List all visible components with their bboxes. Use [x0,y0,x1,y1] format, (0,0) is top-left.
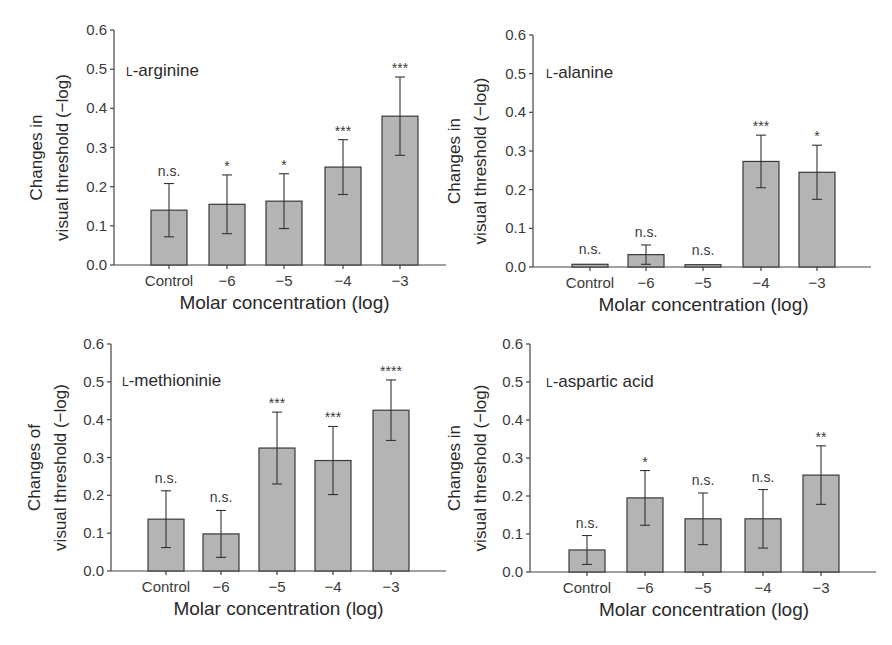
category-label: Control [563,579,611,596]
category-label: −3 [391,272,408,289]
x-axis-title: Molar concentration (log) [598,294,808,315]
y-tick-label: 0.5 [86,60,107,77]
significance-label: n.s. [579,241,602,257]
significance-label: * [814,128,820,144]
y-tick-label: 0.3 [83,449,104,466]
category-label: −5 [268,578,285,595]
y-axis-title-line1: Changes in [445,425,464,511]
significance-label: n.s. [210,489,233,505]
y-tick-label: 0.1 [502,525,523,542]
category-label: −3 [812,579,829,596]
y-tick-label: 0.0 [502,563,523,580]
category-label: −6 [212,578,229,595]
chart-panel-1: 0.00.10.20.30.40.50.6n.s.Controln.s.−6n.… [445,26,871,315]
y-axis-title-line1: Changes of [25,424,44,511]
y-tick-label: 0.4 [86,99,107,116]
significance-label: * [281,157,287,173]
bar [685,265,721,267]
y-tick-label: 0.4 [502,411,523,428]
y-axis-title-line1: Changes in [27,114,46,200]
significance-label: ** [816,429,827,445]
y-axis-title-line1: Changes in [445,118,464,204]
category-label: −6 [637,274,654,291]
significance-label: * [642,454,648,470]
category-label: −4 [334,272,351,289]
y-tick-label: 0.0 [83,562,104,579]
y-tick-label: 0.1 [83,524,104,541]
significance-label: n.s. [158,163,181,179]
significance-label: **** [380,363,402,379]
significance-label: *** [325,409,342,425]
y-tick-label: 0.6 [502,335,523,352]
chart-panel-3: 0.00.10.20.30.40.50.6n.s.Control*−6n.s.−… [445,335,876,620]
panel-title: L-methioninie [122,371,221,390]
y-tick-label: 0.6 [83,335,104,352]
category-label: −4 [752,274,769,291]
y-tick-label: 0.0 [86,256,107,273]
y-tick-label: 0.4 [505,103,526,120]
y-tick-label: 0.3 [505,142,526,159]
category-label: −4 [754,579,771,596]
category-label: −4 [324,578,341,595]
y-tick-label: 0.5 [502,373,523,390]
chart-panel-0: 0.00.10.20.30.40.50.6n.s.Control*−6*−5**… [27,21,446,313]
y-tick-label: 0.5 [83,373,104,390]
significance-label: n.s. [635,224,658,240]
y-axis-title-line2: visual threshold (−log) [471,78,490,245]
chart-panel-2: 0.00.10.20.30.40.50.6n.s.Controln.s.−6**… [25,335,446,619]
category-label: −5 [694,579,711,596]
category-label: −5 [275,272,292,289]
y-tick-label: 0.1 [505,219,526,236]
category-label: −6 [636,579,653,596]
y-tick-label: 0.2 [86,178,107,195]
y-axis-title-line2: visual threshold (−log) [471,385,490,552]
y-tick-label: 0.3 [502,449,523,466]
y-tick-label: 0.6 [86,21,107,38]
x-axis-title: Molar concentration (log) [599,599,809,620]
significance-label: n.s. [692,242,715,258]
category-label: −6 [218,272,235,289]
significance-label: n.s. [692,472,715,488]
y-tick-label: 0.5 [505,65,526,82]
category-label: −3 [808,274,825,291]
category-label: Control [566,274,614,291]
significance-label: *** [269,395,286,411]
y-axis-title-line2: visual threshold (−log) [51,384,70,551]
panel-title: L-arginine [126,61,199,80]
panel-title: L-aspartic acid [546,372,654,391]
y-tick-label: 0.4 [83,411,104,428]
significance-label: *** [335,123,352,139]
x-axis-title: Molar concentration (log) [179,292,389,313]
significance-label: n.s. [155,470,178,486]
y-axis-title-line2: visual threshold (−log) [53,74,72,241]
y-tick-label: 0.2 [505,181,526,198]
y-tick-label: 0.3 [86,139,107,156]
bar [572,264,608,267]
y-tick-label: 0.1 [86,217,107,234]
y-tick-label: 0.6 [505,26,526,43]
significance-label: *** [753,118,770,134]
significance-label: *** [392,60,409,76]
category-label: −5 [694,274,711,291]
figure: 0.00.10.20.30.40.50.6n.s.Control*−6*−5**… [0,0,892,645]
category-label: −3 [382,578,399,595]
category-label: Control [145,272,193,289]
y-tick-label: 0.0 [505,258,526,275]
panel-title: L-alanine [546,63,613,82]
significance-label: n.s. [752,469,775,485]
x-axis-title: Molar concentration (log) [173,598,383,619]
category-label: Control [142,578,190,595]
y-tick-label: 0.2 [83,486,104,503]
y-tick-label: 0.2 [502,487,523,504]
significance-label: n.s. [576,515,599,531]
significance-label: * [224,158,230,174]
